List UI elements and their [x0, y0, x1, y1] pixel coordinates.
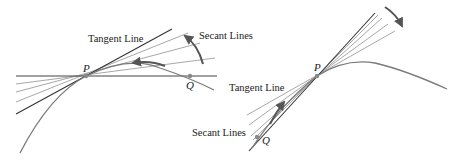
secant-tangent-diagram: Tangent Line Secant Lines P Q Tangent Li…	[0, 0, 462, 166]
right-q-label: Q	[262, 134, 270, 146]
right-secant-label: Secant Lines	[192, 127, 246, 138]
left-tangent-label: Tangent Line	[88, 33, 144, 44]
right-tangent-label: Tangent Line	[229, 82, 285, 93]
right-point-q	[255, 135, 259, 139]
right-rotation-arrow	[385, 7, 402, 26]
right-panel: Tangent Line Secant Lines P Q	[192, 7, 447, 151]
right-p-label: P	[313, 61, 321, 73]
left-point-q	[188, 74, 192, 78]
right-point-p	[315, 74, 319, 78]
left-point-p	[84, 74, 88, 78]
left-q-label: Q	[186, 79, 194, 91]
left-secant-label: Secant Lines	[199, 30, 253, 41]
left-p-label: P	[82, 62, 90, 74]
right-secant-lines	[247, 15, 395, 140]
